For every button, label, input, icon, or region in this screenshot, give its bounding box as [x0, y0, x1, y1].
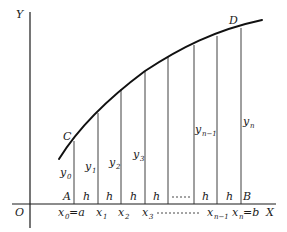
x-tick-x0: x 0 =a — [58, 206, 85, 221]
svg-text:y: y — [194, 123, 202, 136]
strip-h-6: h — [226, 190, 233, 203]
svg-text:y: y — [132, 148, 140, 161]
svg-text:=a: =a — [69, 206, 85, 219]
ordinate-label-y1: y 1 — [84, 160, 96, 175]
ordinate-label-y2: y 2 — [108, 156, 121, 171]
strip-h-2: h — [106, 190, 113, 203]
x-axis-label: X — [265, 206, 275, 219]
x-tick-x2: x 2 — [118, 206, 130, 221]
x-tick-x1: x 1 — [96, 206, 107, 221]
svg-text:2: 2 — [124, 213, 130, 221]
svg-text:n−1: n−1 — [202, 130, 217, 138]
svg-text:3: 3 — [149, 213, 154, 221]
point-b-label: B — [242, 190, 251, 203]
svg-text:x: x — [142, 206, 149, 219]
strip-h-3: h — [130, 190, 137, 203]
point-d-label: D — [228, 14, 238, 27]
strip-h-1: h — [83, 190, 90, 203]
ordinate-label-y0: y 0 — [59, 166, 72, 181]
svg-text:1: 1 — [92, 167, 96, 175]
x-tick-xn-1: x n−1 — [207, 206, 229, 221]
ordinate-label-y3: y 3 — [132, 148, 145, 163]
svg-text:x: x — [232, 206, 239, 219]
x-tick-xn: x n =b — [232, 206, 259, 221]
origin-label: O — [15, 206, 24, 219]
svg-text:3: 3 — [140, 155, 145, 163]
svg-text:2: 2 — [115, 163, 121, 171]
svg-text:0: 0 — [67, 173, 72, 181]
point-a-label: A — [62, 190, 71, 203]
svg-text:y: y — [59, 166, 67, 179]
diagram-canvas: Y X O C D A B y 0 y 1 y 2 y 3 y n−1 y n … — [0, 0, 287, 232]
ordinate-label-yn: y n — [242, 115, 255, 130]
svg-text:n: n — [250, 122, 255, 130]
svg-text:y: y — [242, 115, 250, 128]
svg-text:x: x — [207, 206, 214, 219]
svg-text:y: y — [84, 160, 92, 173]
strip-h-4: h — [153, 190, 160, 203]
ordinate-label-yn-1: y n−1 — [194, 123, 217, 138]
svg-text:x: x — [58, 206, 65, 219]
svg-text:n−1: n−1 — [214, 213, 229, 221]
svg-text:y: y — [108, 156, 116, 169]
svg-text:x: x — [118, 206, 125, 219]
strip-h-5: h — [202, 190, 209, 203]
svg-text:x: x — [96, 206, 103, 219]
x-tick-x3: x 3 — [142, 206, 154, 221]
svg-text:=b: =b — [243, 206, 259, 219]
svg-text:1: 1 — [103, 213, 107, 221]
y-axis-label: Y — [16, 8, 25, 21]
curve-cd — [59, 20, 262, 159]
point-c-label: C — [63, 130, 72, 143]
